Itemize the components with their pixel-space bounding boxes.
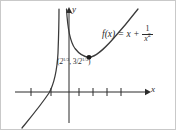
denominator-exponent: 2 — [148, 32, 151, 38]
x-axis-label: x — [151, 85, 155, 94]
function-graph-figure: x y f(x) = x + 1 x2 (21/3, 3/21/3) — [0, 0, 176, 130]
function-name: f(x) — [102, 30, 115, 40]
fraction-one-over-x-squared: 1 x2 — [142, 25, 153, 43]
curve-left-branch — [22, 9, 59, 128]
function-equation-label: f(x) = x + 1 x2 — [102, 26, 153, 44]
annotation-close-paren: ) — [88, 57, 90, 66]
plus-sign: + — [133, 30, 139, 40]
minimum-point-annotation: (21/3, 3/21/3) — [57, 58, 91, 66]
function-term-x: x — [127, 30, 131, 40]
equals-sign: = — [118, 30, 124, 40]
y-axis-label: y — [72, 5, 76, 14]
fraction-denominator: x2 — [142, 35, 153, 44]
